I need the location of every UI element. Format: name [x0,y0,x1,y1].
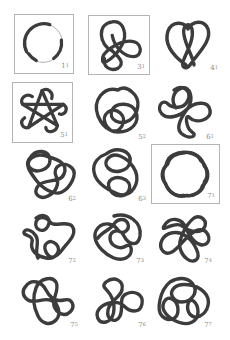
knot-label: 11 [61,63,69,70]
knot-label: 71 [207,193,215,200]
knot-label: 75 [70,322,78,329]
knot-label: 72 [68,258,76,265]
knot-7-6: 76 [88,272,150,332]
knot-5-1: 51 [12,82,73,143]
knot-label: 77 [204,322,212,329]
knot-4-1: 41 [158,15,222,75]
knot-label: 74 [204,258,212,265]
knot-6-2: 62 [16,144,80,206]
knot-label: 31 [137,64,145,71]
knot-label: 61 [206,134,214,141]
knot-7-5: 75 [16,272,82,332]
knot-7-1: 71 [151,144,220,204]
knot-1-1: 11 [14,14,74,74]
knot-5-2: 52 [86,80,150,144]
knot-label: 41 [210,65,218,72]
knot-7-7: 77 [150,272,216,332]
knot-6-1: 61 [152,80,218,144]
knot-7-2: 72 [16,208,80,268]
knot-7-3: 73 [84,208,148,268]
knot-label: 62 [68,196,76,203]
knot-label: 73 [136,258,144,265]
knot-label: 51 [60,132,68,139]
knot-6-3: 63 [86,144,150,206]
knot-label: 76 [138,322,146,329]
knot-7-4: 74 [150,208,216,268]
knot-label: 52 [138,134,146,141]
knot-3-1: 31 [88,15,150,75]
knot-label: 63 [138,196,146,203]
